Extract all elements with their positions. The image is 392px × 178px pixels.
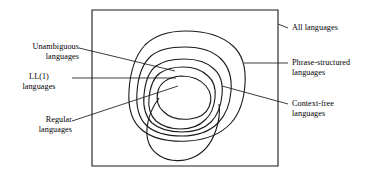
label-all-line1: All languages bbox=[292, 23, 388, 33]
label-ll1-languages: LL(1) languages bbox=[6, 72, 72, 92]
all-languages-boundary bbox=[92, 10, 278, 166]
leader-line-all-languages bbox=[278, 24, 288, 28]
label-regular-languages: Regular languages bbox=[6, 115, 72, 135]
label-unambiguous-line2: languages bbox=[6, 52, 79, 62]
label-context-free-line2: languages bbox=[292, 109, 388, 119]
regular-languages-region bbox=[157, 76, 210, 119]
label-ll1-line1: LL(1) bbox=[6, 72, 72, 82]
label-unambiguous-line1: Unambiguous bbox=[6, 42, 79, 52]
label-all-languages: All languages bbox=[292, 23, 388, 33]
label-ll1-line2: languages bbox=[6, 82, 72, 92]
label-regular-line2: languages bbox=[6, 125, 72, 135]
leader-line-unambiguous bbox=[79, 48, 175, 71]
label-phrase-structured-line1: Phrase-structured bbox=[292, 58, 390, 68]
label-unambiguous-languages: Unambiguous languages bbox=[6, 42, 79, 62]
leader-line-regular bbox=[72, 86, 178, 121]
label-context-free-languages: Context-free languages bbox=[292, 99, 388, 119]
label-phrase-structured-line2: languages bbox=[292, 68, 390, 78]
language-hierarchy-figure: Unambiguous languages LL(1) languages Re… bbox=[0, 0, 392, 178]
label-context-free-line1: Context-free bbox=[292, 99, 388, 109]
label-regular-line1: Regular bbox=[6, 115, 72, 125]
label-phrase-structured-languages: Phrase-structured languages bbox=[292, 58, 390, 78]
